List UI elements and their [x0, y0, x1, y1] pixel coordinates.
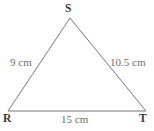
vertex-label-r: R [3, 113, 11, 125]
vertex-label-t: T [139, 113, 147, 125]
side-length-label-st: 10.5 cm [110, 57, 145, 68]
side-length-label-rs: 9 cm [10, 57, 32, 68]
triangle-figure: S R T 9 cm 10.5 cm 15 cm [0, 0, 154, 131]
side-length-label-rt: 15 cm [61, 114, 88, 125]
vertex-label-s: S [65, 3, 71, 15]
